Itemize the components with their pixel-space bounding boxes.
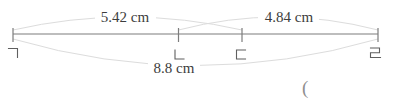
segment-diagram-canvas: 5.42 cm 4.84 cm 8.8 cm (	[0, 0, 398, 99]
answer-open-paren: (	[302, 77, 308, 99]
measurement-label-bottom: 8.8 cm	[154, 60, 195, 76]
point-label-rieul	[371, 48, 381, 58]
segment-diagram: 5.42 cm 4.84 cm 8.8 cm (	[0, 0, 398, 99]
point-label-digeut	[237, 50, 246, 59]
measurement-label-top-left: 5.42 cm	[101, 9, 150, 25]
measurement-label-top-right: 4.84 cm	[265, 9, 314, 25]
point-label-nieun	[175, 50, 184, 59]
point-label-giyeok	[9, 49, 18, 58]
